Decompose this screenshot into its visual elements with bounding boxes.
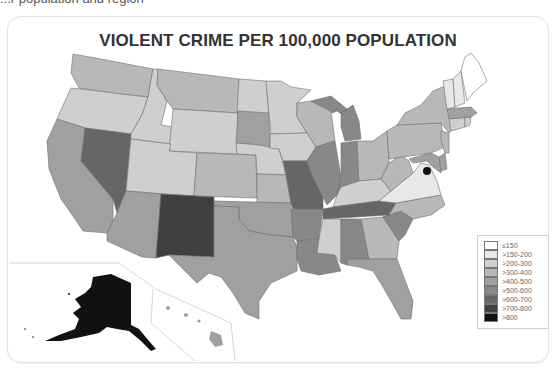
state-RI	[465, 117, 471, 127]
state-HI	[166, 306, 170, 310]
legend-item: >300-400	[484, 268, 532, 277]
us-choropleth-map	[8, 17, 548, 362]
state-NM	[156, 194, 214, 258]
legend-item: >600-700	[484, 295, 532, 304]
state-DC	[423, 167, 431, 175]
state-MT	[157, 69, 239, 113]
legend-item: >200-300	[484, 259, 532, 268]
state-HI	[209, 331, 223, 347]
legend: ≤150 >150-200 >200-300 >300-400 >400-500…	[477, 235, 549, 329]
legend-item: >400-500	[484, 277, 532, 286]
cropped-caption-text: ...r population and region	[0, 0, 144, 6]
legend-item: >150-200	[484, 250, 532, 259]
state-NJ	[441, 131, 449, 153]
legend-item: ≤150	[484, 241, 518, 250]
state-ND	[237, 79, 269, 114]
state-AK	[45, 274, 156, 351]
alaska-islands	[68, 293, 70, 295]
state-HI	[197, 319, 200, 322]
state-KS	[257, 174, 291, 203]
state-CT	[449, 117, 465, 131]
legend-item: >800	[484, 313, 518, 322]
alaska-islands	[24, 328, 26, 330]
state-ME	[461, 53, 487, 101]
state-AR	[291, 209, 323, 241]
state-HI	[184, 313, 188, 317]
legend-item: >700-800	[484, 304, 532, 313]
map-card: VIOLENT CRIME PER 100,000 POPULATION	[7, 16, 549, 363]
state-SD	[236, 111, 270, 148]
legend-item: >500-600	[484, 286, 532, 295]
inset-divider-hawaii	[151, 289, 195, 361]
state-CO	[194, 153, 257, 198]
state-WY	[169, 109, 238, 154]
state-MA	[447, 107, 477, 119]
alaska-islands	[32, 336, 34, 338]
state-PA	[387, 123, 445, 159]
state-FL	[347, 259, 413, 319]
